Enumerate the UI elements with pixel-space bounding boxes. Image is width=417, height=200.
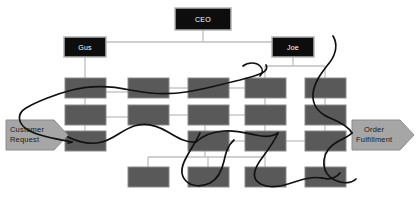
staff-box[interactable] xyxy=(245,167,286,187)
ceo-label: CEO xyxy=(195,16,211,23)
customer-request-label-line2: Request xyxy=(10,135,40,144)
staff-boxes xyxy=(65,78,346,187)
gus-label: Gus xyxy=(78,44,92,51)
diagram-canvas: Customer Request Order Fulfillment CEO G… xyxy=(0,0,417,200)
diagram-svg: Customer Request Order Fulfillment CEO G… xyxy=(0,0,417,200)
staff-box[interactable] xyxy=(128,167,169,187)
executive-boxes: CEO Gus Joe xyxy=(64,8,314,57)
staff-box[interactable] xyxy=(65,105,106,125)
staff-box[interactable] xyxy=(188,105,229,125)
order-fulfillment-label-line1: Order xyxy=(364,125,384,134)
staff-box[interactable] xyxy=(128,105,169,125)
staff-box[interactable] xyxy=(245,105,286,125)
staff-box[interactable] xyxy=(305,78,346,98)
process-flow-segment-entry xyxy=(68,142,72,143)
staff-box[interactable] xyxy=(128,78,169,98)
joe-label: Joe xyxy=(287,44,299,51)
order-fulfillment-label-line2: Fulfillment xyxy=(356,135,393,144)
staff-box[interactable] xyxy=(245,78,286,98)
